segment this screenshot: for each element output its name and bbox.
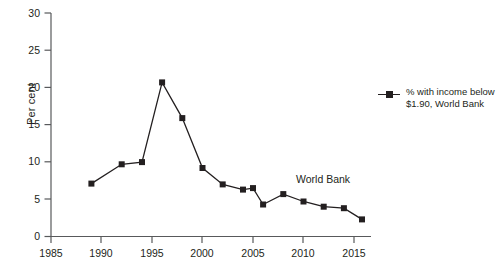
data-point — [359, 216, 365, 222]
series-markers-world-bank — [88, 79, 365, 222]
chart-legend: % with income below $1.90, World Bank — [378, 86, 495, 109]
y-tick-label-15: 15 — [14, 118, 40, 130]
x-tick-label-2010: 2010 — [283, 247, 323, 259]
y-tick-label-10: 10 — [14, 155, 40, 167]
data-point — [240, 187, 246, 193]
y-tick-label-5: 5 — [14, 193, 40, 205]
y-axis-ticks — [45, 13, 52, 237]
x-tick-label-2005: 2005 — [233, 247, 273, 259]
data-point — [321, 204, 327, 210]
x-tick-label-1985: 1985 — [31, 247, 71, 259]
data-point — [341, 205, 347, 211]
legend-label: % with income below $1.90, World Bank — [406, 86, 495, 109]
legend-label-line2: $1.90, World Bank — [406, 98, 495, 110]
data-point — [139, 159, 145, 165]
data-point — [88, 181, 94, 187]
series-line-world-bank — [91, 82, 362, 219]
data-point — [179, 115, 185, 121]
chart-screenshot: Per cent 30 25 20 15 10 5 0 1985 1990 19… — [0, 0, 498, 271]
x-tick-label-1990: 1990 — [81, 247, 121, 259]
series-annotation-world-bank: World Bank — [296, 173, 350, 185]
x-tick-label-2015: 2015 — [334, 247, 374, 259]
data-point — [200, 165, 206, 171]
x-tick-label-1995: 1995 — [132, 247, 172, 259]
y-tick-label-30: 30 — [14, 7, 40, 19]
y-tick-label-20: 20 — [14, 81, 40, 93]
data-point — [260, 202, 266, 208]
legend-label-line1: % with income below — [406, 86, 495, 98]
y-tick-label-25: 25 — [14, 44, 40, 56]
line-chart: Per cent 30 25 20 15 10 5 0 1985 1990 19… — [0, 0, 380, 271]
data-point — [159, 79, 165, 85]
x-axis-ticks — [51, 237, 354, 244]
legend-marker-square-icon — [378, 88, 400, 100]
data-point — [301, 199, 307, 205]
data-point — [220, 181, 226, 187]
x-tick-label-2000: 2000 — [182, 247, 222, 259]
data-point — [250, 185, 256, 191]
data-point — [280, 191, 286, 197]
y-tick-label-0: 0 — [14, 230, 40, 242]
data-point — [119, 161, 125, 167]
plot-svg — [0, 0, 380, 271]
